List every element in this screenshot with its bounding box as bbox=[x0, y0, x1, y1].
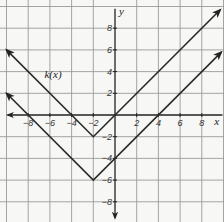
y-tick-label: −6 bbox=[102, 175, 112, 185]
y-tick-label: 4 bbox=[107, 67, 112, 77]
x-tick-label: −6 bbox=[45, 118, 55, 128]
y-tick-label: 8 bbox=[107, 23, 112, 33]
axes: xy bbox=[8, 5, 223, 218]
y-tick-label: 2 bbox=[106, 88, 112, 98]
function-label: k(x) bbox=[44, 68, 61, 81]
x-tick-label: 4 bbox=[156, 118, 161, 128]
x-tick-label: 2 bbox=[133, 118, 139, 128]
x-tick-label: 6 bbox=[178, 118, 183, 128]
x-tick-label: 8 bbox=[199, 118, 204, 128]
y-axis-title: y bbox=[118, 5, 124, 17]
y-tick-label: −2 bbox=[102, 132, 112, 142]
y-tick-label: −8 bbox=[102, 197, 112, 207]
grid-lines bbox=[0, 0, 224, 222]
y-tick-label: 6 bbox=[107, 45, 112, 55]
function-graphs bbox=[7, 10, 222, 180]
function-line bbox=[7, 10, 221, 137]
x-tick-label: −2 bbox=[88, 118, 98, 128]
annotations: k(x) bbox=[44, 68, 61, 81]
x-axis-title: x bbox=[213, 115, 219, 127]
coordinate-plane: xy −8−6−4−224688642−2−4−6−8 k(x) bbox=[0, 0, 224, 222]
